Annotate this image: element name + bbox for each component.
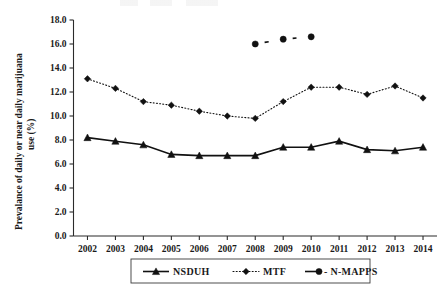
- x-tick-label: 2006: [190, 244, 209, 254]
- x-tick-label: 2008: [246, 244, 265, 254]
- page-artifact-above: [120, 0, 240, 6]
- series-layer: [84, 34, 427, 159]
- y-axis-ticks: 0.02.04.06.08.010.012.014.016.018.0: [50, 15, 74, 241]
- y-axis-label: Prevalance of daily or near daily mariju…: [14, 53, 37, 230]
- prevalence-line-chart: Prevalance of daily or near daily mariju…: [0, 0, 447, 292]
- x-tick-label: 2013: [386, 244, 405, 254]
- y-tick-label: 10.0: [50, 111, 67, 121]
- y-axis-label-line2: use (%): [26, 119, 37, 150]
- y-tick-label: 16.0: [50, 39, 67, 49]
- series-segment: [265, 42, 269, 43]
- data-point-marker: [392, 83, 398, 89]
- data-point-marker: [84, 76, 90, 82]
- y-tick-label: 14.0: [50, 63, 67, 73]
- series-mtf: [84, 76, 426, 122]
- legend-marker: [316, 268, 322, 274]
- chart-legend: NSDUHMTF- N-MAPPS: [131, 259, 378, 283]
- data-point-marker: [252, 41, 258, 47]
- data-point-marker: [280, 98, 286, 104]
- x-tick-label: 2007: [218, 244, 237, 254]
- data-point-marker: [224, 113, 230, 119]
- x-tick-label: 2003: [106, 244, 125, 254]
- data-point-marker: [140, 98, 146, 104]
- data-point-marker: [168, 102, 174, 108]
- x-tick-label: 2011: [330, 244, 349, 254]
- data-point-marker: [196, 108, 202, 114]
- data-point-marker: [420, 95, 426, 101]
- y-tick-label: 2.0: [55, 207, 67, 217]
- chart-figure: Prevalance of daily or near daily mariju…: [0, 0, 447, 292]
- y-tick-label: 6.0: [55, 159, 67, 169]
- y-tick-label: 8.0: [55, 135, 67, 145]
- legend-label: MTF: [263, 266, 286, 277]
- data-point-marker: [308, 84, 314, 90]
- x-tick-label: 2005: [162, 244, 181, 254]
- legend-label: NSDUH: [173, 266, 210, 277]
- data-point-marker: [280, 36, 286, 42]
- x-tick-label: 2009: [274, 244, 293, 254]
- y-tick-label: 12.0: [50, 87, 67, 97]
- x-tick-label: 2004: [134, 244, 153, 254]
- data-point-marker: [364, 91, 370, 97]
- data-point-marker: [336, 84, 342, 90]
- legend-label: - N-MAPPS: [324, 266, 378, 277]
- data-point-marker: [252, 115, 258, 121]
- x-axis-ticks: 2002200320042005200620072008200920102011…: [78, 236, 433, 254]
- y-tick-label: 4.0: [55, 183, 67, 193]
- series-nsduh: [84, 134, 427, 159]
- y-axis-label-line1: Prevalance of daily or near daily mariju…: [14, 53, 24, 230]
- x-tick-label: 2012: [358, 244, 377, 254]
- x-tick-label: 2014: [414, 244, 433, 254]
- y-tick-label: 0.0: [55, 231, 67, 241]
- x-tick-label: 2010: [302, 244, 321, 254]
- data-point-marker: [112, 85, 118, 91]
- x-tick-label: 2002: [78, 244, 97, 254]
- y-tick-label: 18.0: [50, 15, 67, 25]
- data-point-marker: [308, 34, 314, 40]
- series-line: [87, 79, 423, 119]
- series-n-mapps: [252, 34, 314, 47]
